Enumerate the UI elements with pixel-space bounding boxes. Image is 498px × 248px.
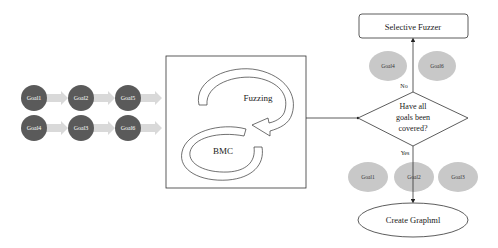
- goal-ellipse-label: Goal4: [381, 63, 395, 69]
- goal-node-label: Goal3: [74, 125, 89, 131]
- goal-flow-arrow: [91, 121, 115, 135]
- decision-line-1: Have all: [400, 102, 428, 111]
- goal-flow-arrow: [91, 91, 115, 105]
- goal-flow-arrow: [44, 91, 68, 105]
- goal-node-label: Goal5: [121, 95, 136, 101]
- goal-flow-arrow: [138, 121, 162, 135]
- no-label: No: [400, 83, 407, 89]
- decision-line-3: covered?: [399, 124, 428, 133]
- goal-ellipse-label: Goal6: [430, 63, 444, 69]
- diagram-canvas: Goal1Goal2Goal5Goal4Goal3Goal6 Fuzzing B…: [0, 0, 498, 248]
- bmc-label: BMC: [213, 146, 233, 156]
- goal-node-label: Goal4: [27, 125, 42, 131]
- goal-ellipse-label: Goal3: [451, 174, 465, 180]
- selective-fuzzer-label: Selective Fuzzer: [385, 22, 442, 32]
- goal-flow-arrow: [138, 91, 162, 105]
- goal-node-label: Goal6: [121, 125, 136, 131]
- create-graphml-label: Create Graphml: [386, 215, 441, 225]
- goal-node-label: Goal2: [74, 95, 89, 101]
- fuzzing-label: Fuzzing: [244, 93, 273, 103]
- goal-ellipse-label: Goal1: [361, 174, 375, 180]
- goal-node-label: Goal1: [27, 95, 42, 101]
- yes-label: Yes: [401, 150, 410, 156]
- goal-grid: Goal1Goal2Goal5Goal4Goal3Goal6: [21, 85, 162, 141]
- uncovered-goals: Goal4Goal6: [369, 51, 456, 81]
- goal-flow-arrow: [44, 121, 68, 135]
- decision-line-2: goals been: [396, 113, 430, 122]
- goal-ellipse-label: Goal2: [407, 174, 421, 180]
